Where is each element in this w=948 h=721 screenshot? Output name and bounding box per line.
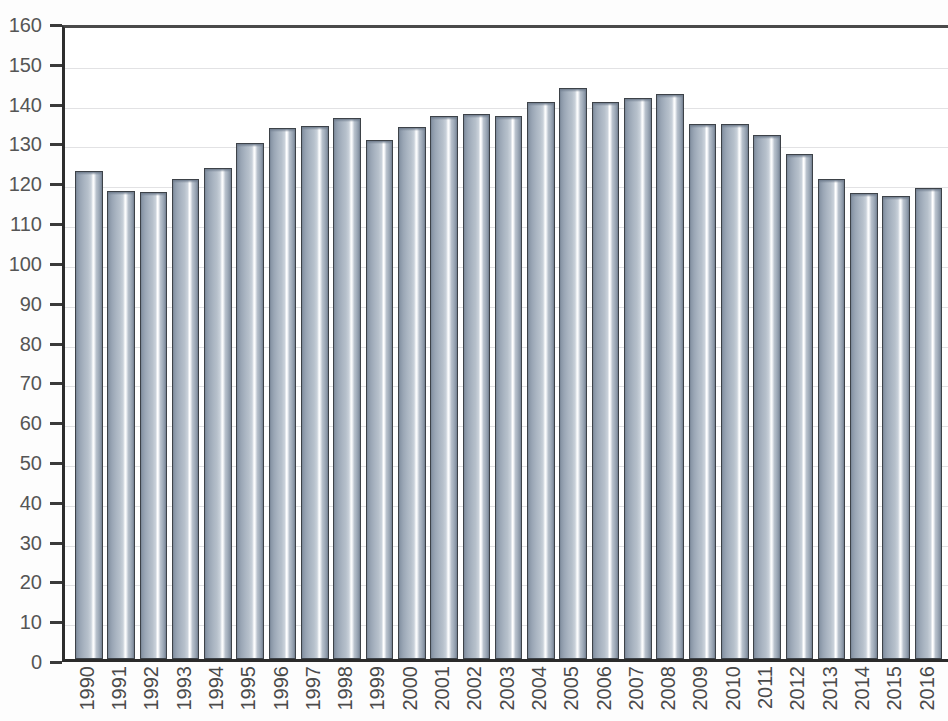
y-axis-tick-label: 150: [9, 53, 42, 76]
bar: [107, 191, 135, 659]
y-axis-tick-mark: [50, 462, 62, 465]
y-axis-tick-label: 10: [20, 611, 42, 634]
bar-chart: 0102030405060708090100110120130140150160…: [0, 0, 948, 721]
x-axis-tick-label: 2015: [883, 666, 906, 711]
y-axis-tick-label: 140: [9, 93, 42, 116]
x-axis-tick-label: 2005: [560, 666, 583, 711]
y-axis-tick-mark: [50, 661, 62, 664]
x-axis: 1990199119921993199419951996199719981999…: [62, 666, 948, 721]
x-axis-tick-label: 2007: [625, 666, 648, 711]
bar: [269, 128, 297, 659]
y-axis-tick-label: 90: [20, 292, 42, 315]
x-axis-tick-label: 1999: [366, 666, 389, 711]
bar: [463, 114, 491, 659]
x-axis-tick-label: 2002: [463, 666, 486, 711]
bar: [366, 140, 394, 659]
bars-series: [65, 28, 948, 659]
x-axis-tick-label: 2009: [689, 666, 712, 711]
bar: [301, 126, 329, 659]
bar: [333, 118, 361, 659]
x-axis-tick-label: 2013: [819, 666, 842, 711]
y-axis-tick-mark: [50, 542, 62, 545]
x-axis-tick-label: 1995: [237, 666, 260, 711]
x-axis-tick-label: 2001: [431, 666, 454, 711]
bar: [656, 94, 684, 659]
y-axis-tick-mark: [50, 581, 62, 584]
bar: [689, 124, 717, 659]
x-axis-tick-label: 2003: [496, 666, 519, 711]
x-axis-tick-label: 2006: [593, 666, 616, 711]
y-axis-tick-mark: [50, 64, 62, 67]
y-axis-tick-mark: [50, 621, 62, 624]
bar: [850, 193, 878, 659]
x-axis-tick-label: 2000: [399, 666, 422, 711]
y-axis-tick-label: 60: [20, 412, 42, 435]
x-axis-tick-label: 1994: [205, 666, 228, 711]
bar: [140, 192, 168, 659]
bar: [527, 102, 555, 659]
x-axis-tick-label: 2014: [851, 666, 874, 711]
x-axis-tick-label: 2012: [786, 666, 809, 711]
y-axis-tick-mark: [50, 183, 62, 186]
x-axis-tick-label: 1998: [334, 666, 357, 711]
bar: [204, 168, 232, 659]
y-axis-tick-mark: [50, 343, 62, 346]
x-axis-tick-label: 1991: [108, 666, 131, 711]
y-axis-tick-label: 40: [20, 491, 42, 514]
bar: [592, 102, 620, 659]
y-axis-tick-label: 50: [20, 451, 42, 474]
x-axis-tick-label: 1992: [140, 666, 163, 711]
bar: [624, 98, 652, 659]
y-axis-tick-mark: [50, 104, 62, 107]
bar: [559, 88, 587, 659]
y-axis-tick-mark: [50, 382, 62, 385]
bar: [721, 124, 749, 659]
x-axis-tick-label: 1990: [76, 666, 99, 711]
y-axis-tick-label: 30: [20, 531, 42, 554]
bar: [915, 188, 943, 659]
bar: [495, 116, 523, 659]
x-axis-tick-label: 2011: [754, 666, 777, 709]
bar: [882, 196, 910, 659]
y-axis-tick-label: 20: [20, 571, 42, 594]
y-axis: 0102030405060708090100110120130140150160: [0, 0, 48, 721]
y-axis-tick-mark: [50, 303, 62, 306]
bar: [75, 171, 103, 659]
bar: [818, 179, 846, 659]
plot-area: [62, 25, 948, 662]
y-axis-tick-label: 130: [9, 133, 42, 156]
y-axis-tick-mark: [50, 24, 62, 27]
x-axis-tick-label: 1993: [173, 666, 196, 711]
x-axis-tick-label: 2016: [916, 666, 939, 711]
x-axis-tick-label: 1997: [302, 666, 325, 711]
y-axis-tick-label: 160: [9, 14, 42, 37]
y-axis-tick-label: 70: [20, 372, 42, 395]
bar: [430, 116, 458, 659]
y-axis-tick-mark: [50, 223, 62, 226]
bar: [753, 135, 781, 659]
bar: [398, 127, 426, 659]
y-axis-tick-mark: [50, 263, 62, 266]
y-axis-tick-mark: [50, 422, 62, 425]
y-axis-tick-mark: [50, 502, 62, 505]
y-axis-tick-label: 120: [9, 173, 42, 196]
x-axis-tick-label: 2004: [528, 666, 551, 711]
y-axis-tick-mark: [50, 143, 62, 146]
x-axis-tick-label: 2010: [722, 666, 745, 711]
bar: [172, 179, 200, 659]
y-axis-tick-label: 100: [9, 252, 42, 275]
bar: [786, 154, 814, 659]
y-axis-tick-label: 110: [10, 213, 42, 236]
y-axis-tick-label: 0: [31, 651, 42, 674]
bar: [236, 143, 264, 659]
x-axis-tick-label: 2008: [657, 666, 680, 711]
y-axis-tick-label: 80: [20, 332, 42, 355]
x-axis-tick-label: 1996: [270, 666, 293, 711]
